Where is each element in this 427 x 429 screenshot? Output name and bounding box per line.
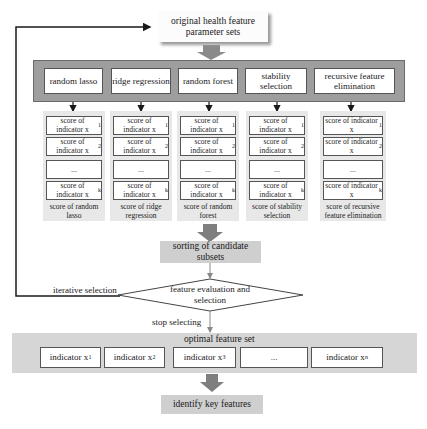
score-text: score of indicator x bbox=[47, 117, 98, 134]
sorting-label: sorting of candidate subsets bbox=[160, 241, 261, 263]
score-subscript: 2 bbox=[98, 142, 101, 151]
indicator-subscript: 3 bbox=[222, 352, 225, 363]
indicator-subscript: n bbox=[365, 352, 368, 363]
score-column-caption: score of ridge regression bbox=[110, 202, 172, 220]
score-text: score of indicator x bbox=[324, 138, 379, 155]
optimal-feature-set-title: optimal feature set bbox=[184, 334, 255, 344]
score-box: score of indicator xk bbox=[46, 181, 102, 200]
score-subscript: k bbox=[98, 186, 101, 195]
score-column-caption: score of recursive feature elimination bbox=[320, 202, 386, 220]
method-random-lasso: random lasso bbox=[44, 68, 103, 94]
score-text: ... bbox=[71, 164, 77, 175]
decision-label: feature evaluation and selection bbox=[160, 284, 260, 306]
score-ellipsis-box: ... bbox=[180, 160, 236, 179]
indicator-box: indicator x2 bbox=[104, 347, 165, 368]
method-label: ridge regression bbox=[112, 76, 170, 86]
score-text: score of indicator x bbox=[47, 138, 98, 155]
indicator-text: ... bbox=[271, 352, 278, 363]
indicator-box: indicator x3 bbox=[173, 347, 236, 368]
score-box: score of indicator xk bbox=[249, 181, 305, 200]
thick-arrow-result bbox=[200, 374, 224, 392]
indicator-ellipsis-box: ... bbox=[240, 347, 308, 368]
score-box: score of indicator x2 bbox=[323, 137, 383, 156]
score-ellipsis-box: ... bbox=[249, 160, 305, 179]
score-subscript: k bbox=[165, 186, 168, 195]
method-ridge-regression: ridge regression bbox=[111, 68, 171, 94]
stop-selecting-label: stop selecting bbox=[152, 317, 201, 327]
identify-key-features-box: identify key features bbox=[161, 395, 263, 414]
method-label: recursive feature elimination bbox=[315, 71, 394, 91]
score-text: score of indicator x bbox=[114, 138, 165, 155]
score-subscript: 2 bbox=[232, 142, 235, 151]
score-box: score of indicator x2 bbox=[113, 137, 169, 156]
score-box: score of indicator x2 bbox=[249, 137, 305, 156]
thick-arrow-source bbox=[197, 45, 226, 60]
score-text: score of indicator x bbox=[47, 182, 98, 199]
score-text: ... bbox=[205, 164, 211, 175]
indicator-text: indicator x bbox=[114, 352, 153, 363]
score-subscript: k bbox=[232, 186, 235, 195]
score-text: score of indicator x bbox=[181, 138, 232, 155]
score-subscript: k bbox=[379, 186, 382, 195]
thick-arrow-scores bbox=[197, 224, 223, 242]
method-label: random lasso bbox=[50, 76, 98, 86]
score-text: score of indicator x bbox=[250, 182, 301, 199]
score-subscript: 2 bbox=[379, 142, 382, 151]
score-text: ... bbox=[274, 164, 280, 175]
score-subscript: 2 bbox=[165, 142, 168, 151]
score-subscript: 1 bbox=[301, 121, 304, 130]
score-text: score of indicator x bbox=[324, 182, 379, 199]
indicator-subscript: 1 bbox=[88, 352, 91, 363]
score-subscript: 1 bbox=[379, 121, 382, 130]
score-text: score of indicator x bbox=[250, 117, 301, 134]
score-column-caption: score of random lasso bbox=[43, 202, 105, 220]
indicator-box: indicator x1 bbox=[40, 347, 101, 368]
score-text: score of indicator x bbox=[114, 182, 165, 199]
score-box: score of indicator x1 bbox=[249, 116, 305, 135]
indicator-text: indicator x bbox=[326, 352, 365, 363]
score-box: score of indicator x1 bbox=[46, 116, 102, 135]
method-label: random forest bbox=[183, 76, 233, 86]
indicator-subscript: 2 bbox=[152, 352, 155, 363]
result-label: identify key features bbox=[173, 399, 251, 410]
score-subscript: 1 bbox=[165, 121, 168, 130]
iterative-selection-label: iterative selection bbox=[53, 285, 117, 295]
indicator-text: indicator x bbox=[50, 352, 89, 363]
indicator-text: indicator x bbox=[184, 352, 223, 363]
score-ellipsis-box: ... bbox=[46, 160, 102, 179]
score-subscript: 2 bbox=[301, 142, 304, 151]
indicator-box: indicator xn bbox=[311, 347, 383, 368]
score-box: score of indicator xk bbox=[113, 181, 169, 200]
score-subscript: k bbox=[301, 186, 304, 195]
score-ellipsis-box: ... bbox=[113, 160, 169, 179]
score-column-caption: score of random forest bbox=[177, 202, 239, 220]
score-subscript: 1 bbox=[232, 121, 235, 130]
sorting-candidate-subsets-box: sorting of candidate subsets bbox=[160, 241, 261, 263]
score-text: score of indicator x bbox=[181, 182, 232, 199]
score-text: score of indicator x bbox=[324, 117, 379, 134]
source-parameter-sets-box: original health feature parameter sets bbox=[158, 11, 268, 42]
score-box: score of indicator xk bbox=[180, 181, 236, 200]
score-box: score of indicator x1 bbox=[113, 116, 169, 135]
score-column-caption: score of stability selection bbox=[246, 202, 308, 220]
score-ellipsis-box: ... bbox=[323, 160, 383, 179]
score-box: score of indicator x1 bbox=[323, 116, 383, 135]
score-text: ... bbox=[350, 164, 356, 175]
score-box: score of indicator x1 bbox=[180, 116, 236, 135]
method-recursive-feature-elimination: recursive feature elimination bbox=[314, 68, 395, 94]
score-box: score of indicator xk bbox=[323, 181, 383, 200]
method-stability-selection: stability selection bbox=[245, 68, 307, 94]
source-label: original health feature parameter sets bbox=[158, 16, 268, 38]
score-subscript: 1 bbox=[98, 121, 101, 130]
method-random-forest: random forest bbox=[178, 68, 238, 94]
score-text: ... bbox=[138, 164, 144, 175]
method-label: stability selection bbox=[246, 71, 306, 91]
score-box: score of indicator x2 bbox=[180, 137, 236, 156]
score-text: score of indicator x bbox=[114, 117, 165, 134]
score-box: score of indicator x2 bbox=[46, 137, 102, 156]
score-text: score of indicator x bbox=[250, 138, 301, 155]
score-text: score of indicator x bbox=[181, 117, 232, 134]
